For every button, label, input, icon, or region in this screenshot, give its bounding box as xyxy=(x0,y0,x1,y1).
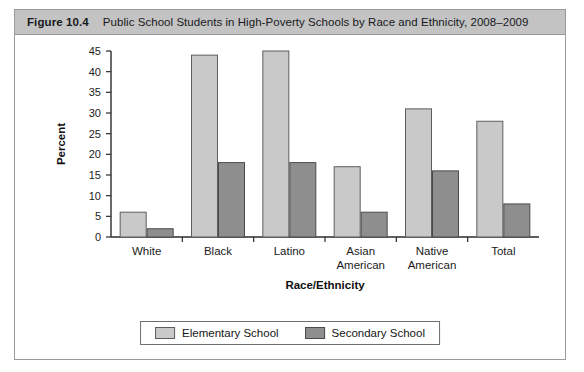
y-tick-label: 20 xyxy=(89,148,101,160)
y-tick-label: 30 xyxy=(89,107,101,119)
y-tick-label: 15 xyxy=(89,169,101,181)
x-category-label: Native xyxy=(416,245,449,257)
y-tick-label: 40 xyxy=(89,66,101,78)
bar-elementary xyxy=(406,109,432,237)
bar-secondary xyxy=(361,212,387,237)
y-tick-label: 10 xyxy=(89,190,101,202)
legend-label-secondary: Secondary School xyxy=(332,327,425,339)
x-category-label: Black xyxy=(204,245,232,257)
x-category-label: Latino xyxy=(274,245,305,257)
chart-legend: Elementary School Secondary School xyxy=(140,321,440,345)
figure-number: Figure 10.4 xyxy=(27,16,89,28)
bar-secondary xyxy=(504,204,530,237)
y-tick-label: 45 xyxy=(89,45,101,57)
bar-secondary xyxy=(147,229,173,237)
y-axis-title: Percent xyxy=(55,123,67,165)
x-category-label: White xyxy=(132,245,161,257)
y-tick-label: 5 xyxy=(95,210,101,222)
bar-elementary xyxy=(120,212,146,237)
x-category-label: American xyxy=(408,259,457,271)
y-tick-label: 35 xyxy=(89,86,101,98)
figure-title: Public School Students in High-Poverty S… xyxy=(103,16,529,28)
bar-chart: 051015202530354045PercentWhiteBlackLatin… xyxy=(15,35,565,359)
legend-swatch-secondary-icon xyxy=(305,327,325,339)
x-category-label: American xyxy=(336,259,385,271)
figure-container: Figure 10.4 Public School Students in Hi… xyxy=(14,9,566,361)
chart-svg: 051015202530354045PercentWhiteBlackLatin… xyxy=(15,35,565,305)
bar-secondary xyxy=(290,163,316,237)
bar-elementary xyxy=(263,51,289,237)
legend-item-secondary: Secondary School xyxy=(305,327,425,339)
x-axis-title: Race/Ethnicity xyxy=(285,279,365,291)
x-category-label: Asian xyxy=(346,245,375,257)
bar-secondary xyxy=(433,171,459,237)
figure-header: Figure 10.4 Public School Students in Hi… xyxy=(14,9,566,34)
legend-item-elementary: Elementary School xyxy=(155,327,279,339)
bar-elementary xyxy=(192,55,218,237)
legend-swatch-elementary-icon xyxy=(155,327,175,339)
bar-secondary xyxy=(219,163,245,237)
legend-label-elementary: Elementary School xyxy=(182,327,279,339)
bar-elementary xyxy=(334,167,360,237)
x-category-label: Total xyxy=(491,245,515,257)
chart-panel: 051015202530354045PercentWhiteBlackLatin… xyxy=(14,34,566,360)
y-tick-label: 0 xyxy=(95,231,101,243)
bar-elementary xyxy=(477,121,503,237)
y-tick-label: 25 xyxy=(89,128,101,140)
